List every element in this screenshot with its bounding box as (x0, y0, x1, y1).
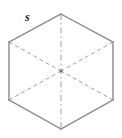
side-length-label: s (25, 11, 30, 23)
hexagon-edge-bottom-right (61, 100, 113, 129)
hexagon-edge-top-right (61, 14, 113, 42)
diagonal-lower-left-to-center-line (9, 71, 61, 100)
hexagon-diagram-svg (0, 0, 122, 138)
hexagon-edge-bottom-left (9, 100, 61, 129)
center-point-dot (59, 69, 62, 72)
hexagon-edge-top-left (9, 14, 61, 42)
diagonal-lower-right-to-center-line (61, 71, 113, 100)
diagonal-upper-left-to-center-line (9, 42, 61, 71)
hexagon-figure: s (0, 0, 122, 138)
diagonal-upper-right-to-center-line (61, 42, 113, 71)
